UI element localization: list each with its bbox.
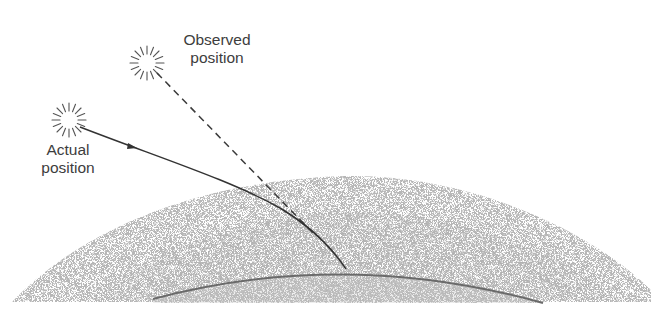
observed-label-line1: Observed — [176, 31, 258, 49]
actual-label-line2: position — [33, 159, 103, 177]
observed-position-label: Observed position — [176, 31, 258, 67]
actual-position-label: Actual position — [33, 141, 103, 177]
actual-label-line1: Actual — [33, 141, 103, 159]
ray-direction-arrow-icon — [127, 143, 137, 149]
observed-label-line2: position — [176, 49, 258, 67]
actual-sun-icon — [52, 103, 86, 137]
